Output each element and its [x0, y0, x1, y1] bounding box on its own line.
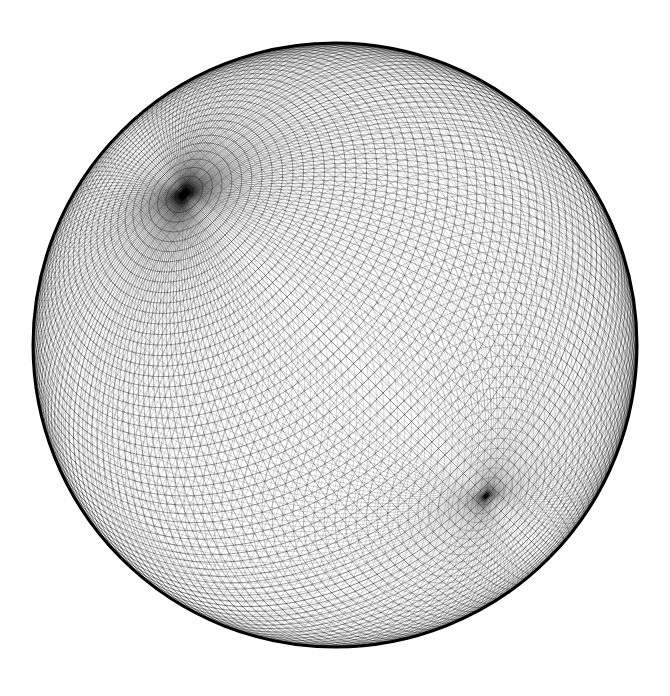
longitude-line-back	[176, 87, 486, 496]
longitude-line-back	[332, 43, 508, 496]
triangle-diagonal	[153, 194, 311, 646]
longitude-line	[78, 194, 184, 564]
triangle-diagonal	[107, 194, 200, 615]
longitude-line-back	[33, 342, 486, 518]
triangle-diagonal	[144, 194, 291, 643]
figure-canvas	[0, 0, 670, 696]
longitude-line-back	[260, 496, 486, 641]
sphere-mesh	[33, 43, 637, 647]
longitude-line	[184, 194, 559, 548]
triangle-diagonal	[183, 194, 410, 640]
longitude-line	[173, 194, 366, 645]
longitude-line-back	[111, 143, 486, 497]
longitude-line-back	[41, 412, 486, 546]
longitude-line	[133, 194, 267, 639]
triangle-diagonal	[78, 194, 184, 564]
longitude-line-back	[133, 121, 487, 496]
longitude-line	[184, 194, 538, 569]
longitude-line	[162, 194, 338, 647]
longitude-line-back	[122, 132, 487, 497]
longitude-line	[184, 194, 494, 603]
wireframe-sphere	[0, 0, 670, 696]
longitude-line-back	[35, 314, 486, 507]
longitude-line	[184, 183, 635, 376]
